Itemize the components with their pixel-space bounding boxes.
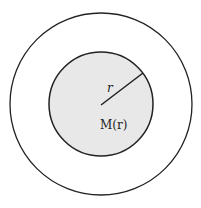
mass-label: M(r) bbox=[100, 118, 127, 132]
inner-circle bbox=[49, 52, 153, 156]
concentric-circles-diagram: r M(r) bbox=[0, 0, 201, 208]
